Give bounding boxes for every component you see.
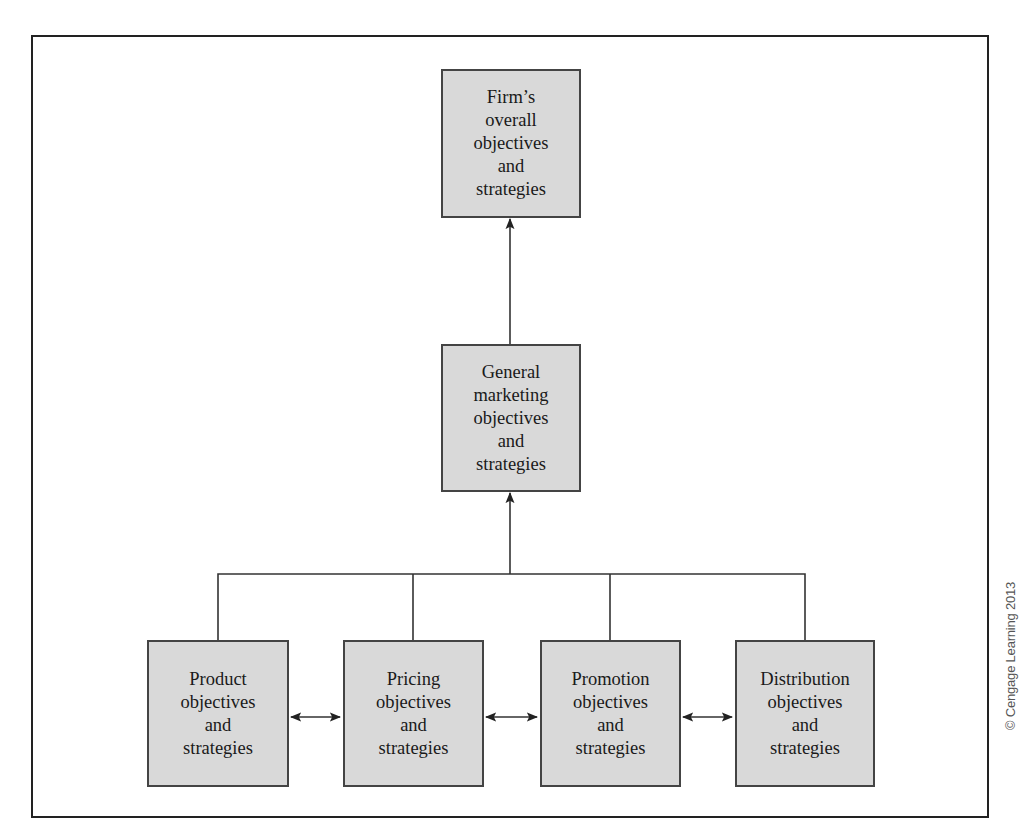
node-label-line: and bbox=[760, 714, 849, 737]
node-promotion: Promotion objectives and strategies bbox=[540, 640, 681, 787]
node-label-line: and bbox=[571, 714, 649, 737]
node-overall-objectives: Firm’s overall objectives and strategies bbox=[441, 69, 581, 218]
node-label-line: General bbox=[473, 361, 548, 384]
node-label-line: strategies bbox=[376, 737, 451, 760]
bracket-line bbox=[218, 574, 805, 640]
node-label-line: Firm’s bbox=[473, 86, 548, 109]
node-label-line: strategies bbox=[473, 178, 548, 201]
node-label-line: and bbox=[180, 714, 255, 737]
node-label-line: overall bbox=[473, 109, 548, 132]
node-label-line: Product bbox=[180, 668, 255, 691]
node-label-line: marketing bbox=[473, 384, 548, 407]
copyright-credit: © Cengage Learning 2013 bbox=[1003, 582, 1018, 730]
node-label-line: objectives bbox=[473, 407, 548, 430]
node-label-line: and bbox=[376, 714, 451, 737]
node-label-line: and bbox=[473, 430, 548, 453]
node-label-line: objectives bbox=[473, 132, 548, 155]
node-label-line: objectives bbox=[760, 691, 849, 714]
node-label-line: strategies bbox=[571, 737, 649, 760]
node-pricing: Pricing objectives and strategies bbox=[343, 640, 484, 787]
node-label-line: Pricing bbox=[376, 668, 451, 691]
node-label-line: objectives bbox=[376, 691, 451, 714]
node-label-line: objectives bbox=[180, 691, 255, 714]
node-label-line: strategies bbox=[760, 737, 849, 760]
node-label-line: Promotion bbox=[571, 668, 649, 691]
node-general-marketing: General marketing objectives and strateg… bbox=[441, 344, 581, 492]
node-label-line: Distribution bbox=[760, 668, 849, 691]
node-label-line: strategies bbox=[180, 737, 255, 760]
node-product: Product objectives and strategies bbox=[147, 640, 289, 787]
node-label-line: and bbox=[473, 155, 548, 178]
node-label-line: strategies bbox=[473, 453, 548, 476]
node-distribution: Distribution objectives and strategies bbox=[735, 640, 875, 787]
node-label-line: objectives bbox=[571, 691, 649, 714]
